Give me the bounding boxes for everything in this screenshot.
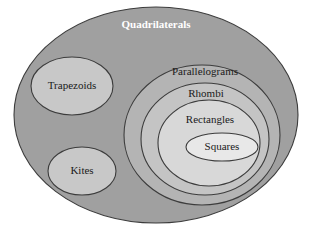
set-label-rectangles: Rectangles	[186, 113, 234, 125]
set-label-rhombi: Rhombi	[188, 87, 223, 99]
euler-diagram-quadrilaterals: Quadrilaterals Trapezoids Kites Parallel…	[0, 0, 311, 231]
set-label-squares: Squares	[205, 140, 240, 152]
set-label-parallelograms: Parallelograms	[172, 65, 238, 77]
set-label-trapezoids: Trapezoids	[48, 79, 96, 91]
euler-diagram-canvas: Quadrilaterals Trapezoids Kites Parallel…	[0, 0, 311, 231]
set-label-quadrilaterals: Quadrilaterals	[121, 18, 191, 30]
set-label-kites: Kites	[70, 164, 93, 176]
